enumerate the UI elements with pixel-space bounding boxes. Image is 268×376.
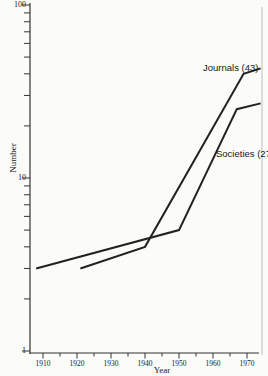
x-tick-label-1960: 1960 [199, 359, 227, 368]
line-chart-figure: Number Year 110100 191019201930194019501… [0, 0, 268, 376]
plot-canvas [0, 0, 268, 376]
y-tick-label-1: 1 [6, 346, 26, 356]
x-tick-label-1940: 1940 [131, 359, 159, 368]
y-tick-label-10: 10 [6, 173, 26, 183]
journals-line [80, 68, 260, 268]
x-tick-label-1920: 1920 [63, 359, 91, 368]
societies-series-annotation: Societies (27) [216, 148, 268, 159]
societies-line [36, 103, 260, 268]
x-tick-label-1970: 1970 [233, 359, 261, 368]
x-tick-label-1910: 1910 [29, 359, 57, 368]
x-tick-label-1950: 1950 [165, 359, 193, 368]
y-tick-label-100: 100 [6, 0, 26, 10]
journals-series-annotation: Journals (43) [203, 62, 258, 73]
x-tick-label-1930: 1930 [97, 359, 125, 368]
